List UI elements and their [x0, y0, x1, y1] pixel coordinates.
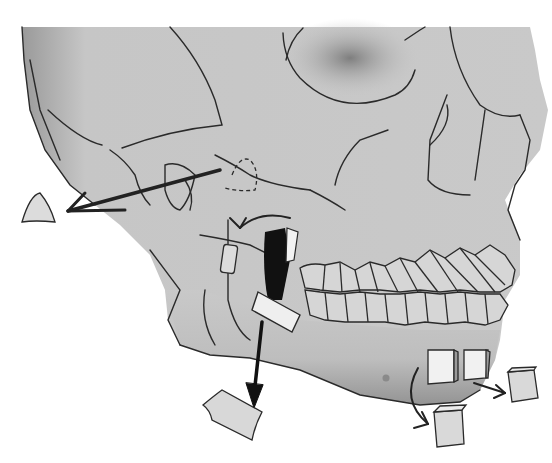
coronoid-graft-rod — [220, 244, 238, 274]
skull-drawing — [0, 0, 552, 463]
zygomatic-graft-piece — [22, 193, 55, 222]
skull-illustration — [0, 0, 552, 463]
